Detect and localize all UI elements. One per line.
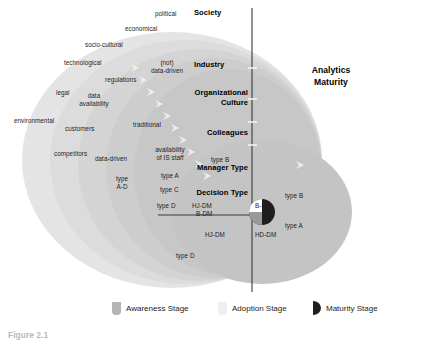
- factor-regulations: regulations: [105, 76, 136, 84]
- awareness-swatch-icon: [112, 302, 121, 315]
- factor-data-availability: availability: [68, 100, 120, 108]
- factor-legal: legal: [56, 89, 70, 97]
- legend-label-maturity: Maturity Stage: [326, 304, 378, 313]
- adoption-swatch-icon: [218, 302, 227, 315]
- maturity-swatch-icon: [313, 301, 321, 315]
- manager-type-a: type A: [161, 172, 179, 180]
- decision-type-hj-dm-upper: HJ-DM: [192, 202, 212, 210]
- factor-data: data: [77, 92, 111, 100]
- factor-competitors: competitors: [54, 150, 87, 158]
- factor-economical: economical: [125, 25, 157, 33]
- legend-item-maturity: Maturity Stage: [313, 301, 378, 315]
- maturity-manager-type-a: type A: [285, 222, 303, 230]
- title-analytics-maturity-line1: Analytics: [288, 65, 374, 76]
- legend-label-adoption: Adoption Stage: [232, 304, 287, 313]
- heading-colleagues: Colleagues: [168, 128, 248, 137]
- heading-manager-type: Manager Type: [168, 163, 248, 172]
- factor-customers: customers: [65, 125, 95, 133]
- heading-organizational-culture-line1: Organizational: [155, 88, 248, 97]
- factor-technological: technological: [64, 59, 101, 67]
- figure-caption: Figure 2.1: [8, 330, 48, 340]
- title-analytics-maturity-line2: Maturity: [288, 77, 374, 88]
- maturity-manager-type-b: type B: [285, 192, 303, 200]
- legend-label-awareness: Awareness Stage: [126, 304, 189, 313]
- factor-environmental: environmental: [14, 117, 54, 125]
- factor-not: (not): [147, 59, 187, 67]
- factor-availability-of-is-staff-line2: of IS staff: [145, 154, 195, 162]
- factor-political: political: [155, 10, 176, 18]
- factor-socio-cultural: socio-cultural: [85, 41, 123, 49]
- manager-type-a-d-line1: type: [108, 175, 136, 183]
- legend-item-awareness: Awareness Stage: [112, 302, 189, 315]
- heading-organizational-culture-line2: Culture: [155, 98, 248, 107]
- heading-industry: Industry: [194, 60, 224, 69]
- legend-item-adoption: Adoption Stage: [218, 302, 287, 315]
- heading-society: Society: [194, 8, 221, 17]
- factor-not-data-driven: data-driven: [143, 67, 191, 75]
- legend: Awareness Stage Adoption Stage Maturity …: [0, 300, 421, 322]
- decision-type-hd-dm: HD-DM: [255, 231, 276, 239]
- decision-type-type-d: type D: [176, 252, 195, 260]
- factor-availability-of-is-staff-line1: availability: [145, 146, 195, 154]
- decision-type-hj-dm-lower: HJ-DM: [205, 231, 225, 239]
- decision-type-b-dm-upper: B-DM: [196, 210, 212, 218]
- decision-type-b-dm-right: B-DM: [255, 202, 271, 210]
- manager-type-d: type D: [157, 202, 176, 210]
- manager-type-a-d-line2: A-D: [108, 183, 136, 191]
- heading-decision-type: Decision Type: [168, 188, 248, 197]
- factor-traditional: traditional: [133, 121, 161, 129]
- factor-data-driven: data-driven: [95, 155, 127, 163]
